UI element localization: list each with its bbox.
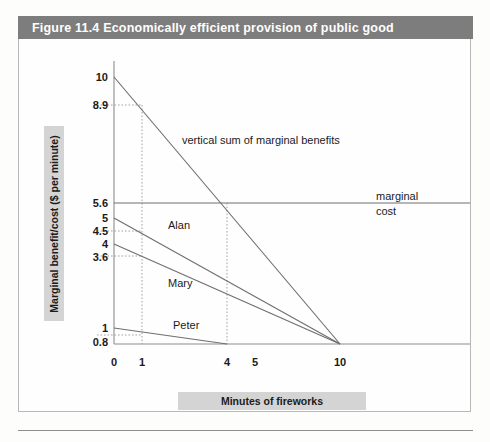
- y-tick-label-5-6: 5.6: [93, 197, 108, 209]
- y-tick-label-4: 4: [102, 238, 109, 250]
- annotation-peter: Peter: [173, 319, 200, 331]
- y-tick-label-1: 1: [102, 322, 108, 334]
- curve-vertical-sum-of-marginal-benefits: [114, 77, 340, 344]
- bottom-divider: [18, 430, 473, 431]
- figure-title-bar: Figure 11.4 Economically efficient provi…: [18, 16, 473, 39]
- y-tick-label-10: 10: [96, 71, 108, 83]
- y-tick-label-4-5: 4.5: [93, 225, 108, 237]
- figure-container: Figure 11.4 Economically efficient provi…: [0, 0, 490, 442]
- annotation-marginal-cost-line1: marginal: [376, 190, 418, 202]
- x-axis-label-text: Minutes of fireworks: [221, 395, 323, 407]
- x-tick-label-5: 5: [252, 356, 258, 368]
- page-title: Figure 11.4 Economically efficient provi…: [18, 21, 394, 35]
- x-tick-label-0: 0: [111, 356, 117, 368]
- y-tick-label-8-9: 8.9: [93, 99, 108, 111]
- annotation-mary: Mary: [168, 277, 193, 289]
- y-axis-label-text: Marginal benefit/cost ($ per minute): [48, 135, 60, 312]
- y-tick-label-5: 5: [102, 212, 108, 224]
- annotation-vertical-sum: vertical sum of marginal benefits: [182, 134, 340, 146]
- y-tick-label-3-6: 3.6: [93, 251, 108, 263]
- x-tick-label-4: 4: [224, 356, 231, 368]
- chart-plot-area: 10 8.9 5.6 5 4.5 4 3.6 1 0.8 0 1 4 5 10 …: [18, 39, 471, 412]
- curve-alan: [114, 218, 340, 344]
- x-tick-label-1: 1: [139, 356, 145, 368]
- annotation-alan: Alan: [168, 219, 190, 231]
- x-tick-label-10: 10: [334, 356, 346, 368]
- y-axis-label: Marginal benefit/cost ($ per minute): [44, 126, 64, 321]
- annotation-marginal-cost-line2: cost: [376, 205, 396, 217]
- curve-peter: [114, 328, 227, 344]
- y-tick-label-0-8: 0.8: [93, 336, 108, 348]
- x-axis-label: Minutes of fireworks: [178, 392, 366, 410]
